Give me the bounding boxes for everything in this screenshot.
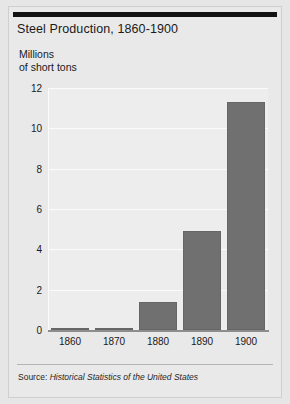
source-note: Source: Historical Statistics of the Uni… [18,372,198,382]
chart-figure: Steel Production, 1860-1900 Millions of … [0,0,290,404]
plot-area [48,88,268,330]
y-axis-tick-label: 10 [16,123,42,134]
source-divider-rule [17,364,273,365]
source-title: Historical Statistics of the United Stat… [50,372,198,382]
x-axis-tick-labels: 18601870188018901900 [48,336,268,352]
y-axis-tick-label: 12 [16,83,42,94]
bar [183,231,221,330]
source-prefix: Source: [18,372,47,382]
bar [139,302,177,330]
y-axis-unit-caption: Millions of short tons [19,48,77,74]
y-axis-tick-labels: 024681012 [14,88,42,330]
gridline [48,88,268,89]
y-axis-tick-label: 8 [16,163,42,174]
x-axis-tick-label: 1870 [103,336,125,347]
x-axis-tick-label: 1860 [59,336,81,347]
bar [227,102,265,330]
x-axis-line [48,330,269,332]
x-axis-tick-label: 1890 [191,336,213,347]
y-axis-unit-line-2: of short tons [19,61,77,74]
y-axis-tick-label: 0 [16,325,42,336]
top-divider-rule [13,12,277,17]
x-axis-tick-label: 1880 [147,336,169,347]
x-axis-tick-label: 1900 [235,336,257,347]
y-axis-tick-label: 4 [16,244,42,255]
y-axis-unit-line-1: Millions [19,48,77,61]
y-axis-tick-label: 6 [16,204,42,215]
chart-title: Steel Production, 1860-1900 [17,22,178,36]
y-axis-tick-label: 2 [16,284,42,295]
